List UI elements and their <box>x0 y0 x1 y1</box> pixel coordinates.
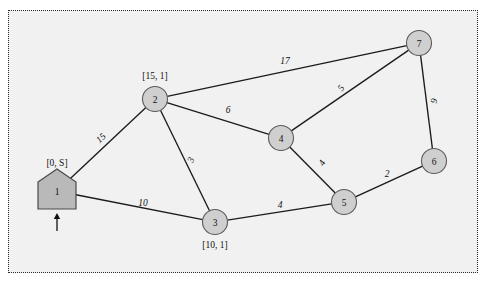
node-1-label: 1 <box>55 187 60 197</box>
edge-weight-4-5: 4 <box>316 158 327 167</box>
node-4[interactable]: 4 <box>269 126 294 151</box>
edge-2-4 <box>167 103 269 135</box>
node-4-label: 4 <box>279 134 284 144</box>
edge-4-7 <box>291 50 408 131</box>
edge-weight-3-5: 4 <box>278 200 283 210</box>
node-2-annotation: [15, 1] <box>142 71 167 81</box>
edge-weight-2-7: 17 <box>280 56 291 66</box>
node-5-label: 5 <box>342 198 347 208</box>
node-7-label: 7 <box>417 39 422 49</box>
node-3-annotation: [10, 1] <box>202 240 227 250</box>
edge-weight-5-6: 2 <box>385 169 390 179</box>
node-6-label: 6 <box>432 157 437 167</box>
source-arrow-head <box>54 213 60 219</box>
node-7[interactable]: 7 <box>407 31 432 56</box>
edge-weight-1-2: 15 <box>94 131 108 145</box>
node-1[interactable]: 1 <box>38 169 76 209</box>
graph-canvas: 1510176345429 1234567 [0, S][15, 1][10, … <box>0 0 495 287</box>
edge-weight-7-6: 9 <box>429 98 440 105</box>
edge-weight-2-4: 6 <box>226 105 231 115</box>
node-2-label: 2 <box>153 95 158 105</box>
edge-weight-4-7: 5 <box>336 83 347 93</box>
edge-4-5 <box>290 147 335 193</box>
edge-2-7 <box>167 46 407 97</box>
annotations-layer: [0, S][15, 1][10, 1] <box>46 71 227 250</box>
node-5[interactable]: 5 <box>332 190 357 215</box>
edge-weight-1-3: 10 <box>138 198 148 208</box>
node-3[interactable]: 3 <box>203 210 228 235</box>
figure-stage: 1510176345429 1234567 [0, S][15, 1][10, … <box>0 0 495 287</box>
node-2[interactable]: 2 <box>143 87 168 112</box>
node-1-annotation: [0, S] <box>46 158 67 168</box>
node-3-label: 3 <box>213 218 218 228</box>
edges-layer <box>70 46 432 220</box>
edge-1-2 <box>70 108 146 179</box>
node-6[interactable]: 6 <box>422 149 447 174</box>
